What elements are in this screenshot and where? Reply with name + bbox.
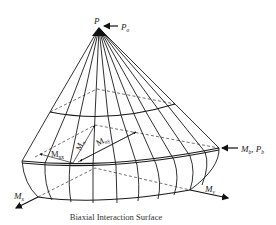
apex-label: P [93,16,100,26]
diagram-caption: Biaxial Interaction Surface [70,212,163,222]
axis-arrows [16,26,238,208]
mnx-label: Mnx [51,149,64,160]
biaxial-interaction-diagram: P Po Mb, Pb Mx My Mnx Mny Mn Biaxial Int… [0,0,276,225]
mb-pb-label: Mb, Pb [240,144,264,155]
po-label: Po [120,22,130,33]
apex-point [92,27,107,36]
hidden-contours [35,89,219,197]
mn-label: Mn [73,139,87,153]
mx-label: Mx [13,191,25,202]
my-label: My [204,184,216,195]
